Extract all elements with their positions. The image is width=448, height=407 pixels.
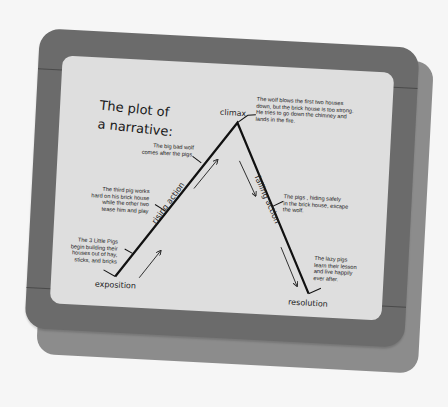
photo-stage: The plot of a narrative: climax expositi… — [0, 0, 448, 407]
note-falling: The pigs , hiding safely in the brick ho… — [283, 193, 349, 216]
board-frame: The plot of a narrative: climax expositi… — [24, 28, 419, 347]
note-resolution: The lazy pigs learn their lesson and liv… — [313, 255, 357, 284]
diagram-title: The plot of a narrative: — [97, 96, 176, 142]
note-climax: The wolf blows the first two houses down… — [255, 96, 354, 127]
note-rising-1: The third pig works hard on his brick ho… — [91, 185, 150, 214]
diagram-paper: The plot of a narrative: climax expositi… — [50, 55, 395, 320]
note-exposition: The 3 Little Pigs begin building their h… — [70, 236, 118, 265]
stage-label-climax: climax — [220, 108, 247, 118]
note-rising-2: The big bad wolf comes after the pigs. — [142, 142, 195, 158]
